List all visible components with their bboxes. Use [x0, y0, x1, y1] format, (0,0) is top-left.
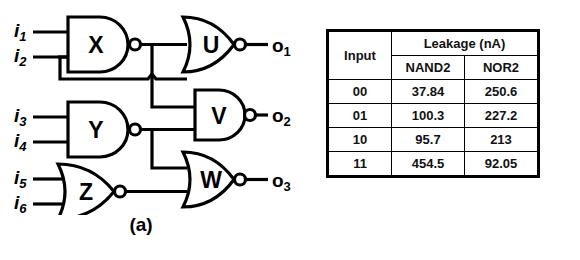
- gate-label-X: X: [88, 32, 104, 58]
- header-nand2: NAND2: [392, 56, 465, 80]
- cell-nand2: 454.5: [392, 152, 465, 177]
- table-row: 10 95.7 213: [328, 128, 539, 152]
- logic-circuit-svg: i1 i2 i3 i4 i5 i6: [0, 0, 300, 215]
- cell-nand2: 37.84: [392, 80, 465, 104]
- gate-W-bubble-icon: [235, 174, 246, 185]
- gate-label-V: V: [211, 103, 227, 129]
- input-label-i6: i6: [14, 192, 27, 215]
- gate-label-U: U: [203, 32, 220, 58]
- gate-label-Z: Z: [79, 179, 93, 205]
- cell-input: 11: [328, 152, 392, 177]
- gate-V-bubble-icon: [245, 110, 256, 121]
- header-leakage: Leakage (nA): [392, 31, 539, 56]
- cell-nand2: 95.7: [392, 128, 465, 152]
- cell-input: 00: [328, 80, 392, 104]
- input-label-i1: i1: [14, 20, 27, 44]
- input-label-i3: i3: [14, 105, 27, 129]
- gate-U-bubble-icon: [235, 39, 246, 50]
- output-label-o2: o2: [272, 105, 291, 129]
- gate-Z-bubble-icon: [115, 186, 126, 197]
- cell-nand2: 100.3: [392, 104, 465, 128]
- wire-Y-to-W: [152, 130, 187, 169]
- table-row: 01 100.3 227.2: [328, 104, 539, 128]
- output-label-o1: o1: [272, 35, 291, 59]
- gate-Y-bubble-icon: [130, 124, 141, 135]
- output-label-o3: o3: [272, 170, 291, 194]
- header-input: Input: [328, 31, 392, 80]
- cell-input: 01: [328, 104, 392, 128]
- table-row: 00 37.84 250.6: [328, 80, 539, 104]
- cell-nor2: 92.05: [465, 152, 539, 177]
- caption-a: (a): [106, 214, 176, 236]
- table-row: 11 454.5 92.05: [328, 152, 539, 177]
- leakage-table: Input Leakage (nA) NAND2 NOR2 00 37.84 2…: [326, 29, 540, 178]
- input-label-i4: i4: [14, 130, 27, 154]
- cell-nor2: 227.2: [465, 104, 539, 128]
- panel-leakage-table: Input Leakage (nA) NAND2 NOR2 00 37.84 2…: [300, 0, 580, 260]
- gate-X-bubble-icon: [130, 39, 141, 50]
- gate-label-Y: Y: [88, 117, 103, 143]
- cell-input: 10: [328, 128, 392, 152]
- table-header-row-top: Input Leakage (nA): [328, 31, 539, 56]
- panel-circuit-diagram: i1 i2 i3 i4 i5 i6: [0, 0, 300, 260]
- cell-nor2: 250.6: [465, 80, 539, 104]
- figure-root: i1 i2 i3 i4 i5 i6: [0, 0, 580, 260]
- cell-nor2: 213: [465, 128, 539, 152]
- header-nor2: NOR2: [465, 56, 539, 80]
- input-label-i5: i5: [14, 167, 27, 191]
- input-label-i2: i2: [14, 45, 27, 69]
- gate-label-W: W: [200, 167, 222, 193]
